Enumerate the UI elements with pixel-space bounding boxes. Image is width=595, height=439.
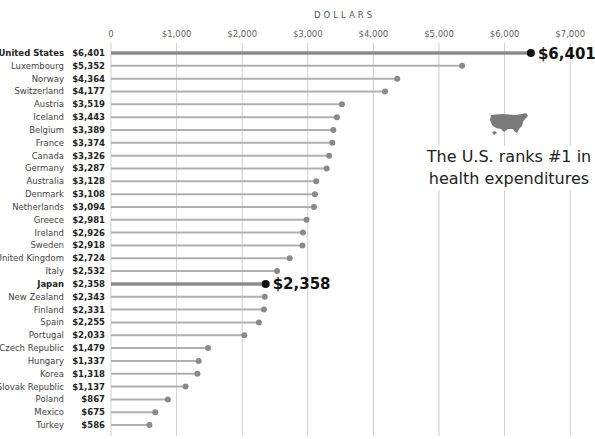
highlight-value-label: $2,358	[273, 275, 331, 293]
value-label: $2,033	[72, 330, 105, 340]
value-label: $2,331	[72, 305, 105, 315]
country-label: Germany	[25, 163, 64, 173]
country-label: Ireland	[35, 228, 64, 238]
lollipop-dot	[194, 371, 200, 377]
value-label: $2,724	[72, 253, 105, 263]
value-label: $2,358	[72, 279, 105, 289]
lollipop-dot	[394, 76, 400, 82]
country-label: Austria	[34, 99, 64, 109]
lollipop-dot	[330, 127, 336, 133]
country-label: United Kingdom	[0, 253, 64, 263]
country-label: Finland	[34, 305, 64, 315]
country-label: Poland	[36, 394, 64, 404]
country-label: Greece	[34, 215, 64, 225]
country-label: Slovak Republic	[0, 382, 64, 392]
lollipop-dot	[459, 63, 465, 69]
x-tick-label: $2,000	[227, 29, 257, 39]
country-label: United States	[0, 48, 64, 58]
value-label: $3,094	[72, 202, 105, 212]
lollipop-dot	[262, 280, 270, 288]
value-label: $3,326	[72, 151, 105, 161]
lollipop-dot	[339, 101, 345, 107]
value-label: $6,401	[72, 48, 105, 58]
x-tick-label: $1,000	[162, 29, 192, 39]
value-label: $3,389	[72, 125, 105, 135]
x-tick-label: $7,000	[555, 29, 585, 39]
health-expenditure-chart: DOLLARS0$1,000$2,000$3,000$4,000$5,000$6…	[0, 0, 595, 439]
value-label: $675	[81, 407, 105, 417]
value-label: $3,443	[72, 112, 105, 122]
value-label: $3,374	[72, 138, 105, 148]
lollipop-dot	[527, 49, 535, 57]
x-axis-title: DOLLARS	[314, 10, 375, 20]
lollipop-dot	[313, 178, 319, 184]
lollipop-dot	[287, 255, 293, 261]
country-label: Belgium	[29, 125, 64, 135]
value-label: $2,255	[72, 317, 105, 327]
lollipop-dot	[241, 332, 247, 338]
country-label: Canada	[32, 151, 64, 161]
country-label: Switzerland	[14, 86, 64, 96]
x-tick-label: $6,000	[490, 29, 520, 39]
lollipop-dot	[165, 396, 171, 402]
x-tick-label: $3,000	[293, 29, 323, 39]
country-label: Sweden	[30, 240, 64, 250]
x-tick-label: $4,000	[359, 29, 389, 39]
value-label: $867	[81, 394, 105, 404]
x-tick-label: 0	[108, 29, 113, 39]
lollipop-dot	[304, 217, 310, 223]
lollipop-dot	[326, 153, 332, 159]
country-label: Denmark	[25, 189, 64, 199]
value-label: $5,352	[72, 61, 105, 71]
value-label: $2,532	[72, 266, 105, 276]
country-label: Netherlands	[12, 202, 64, 212]
lollipop-dot	[300, 230, 306, 236]
country-label: New Zealand	[8, 292, 64, 302]
lollipop-dot	[183, 384, 189, 390]
country-label: Portugal	[29, 330, 64, 340]
value-label: $1,479	[72, 343, 105, 353]
lollipop-dot	[324, 165, 330, 171]
lollipop-dot	[146, 422, 152, 428]
us-map-icon	[488, 112, 530, 138]
lollipop-dot	[382, 88, 388, 94]
value-label: $3,519	[72, 99, 105, 109]
value-label: $2,926	[72, 228, 105, 238]
highlight-value-label: $6,401	[538, 45, 595, 63]
annotation-line-1: The U.S. ranks #1 in	[424, 146, 594, 168]
country-label: Iceland	[33, 112, 64, 122]
country-label: Hungary	[28, 356, 64, 366]
value-label: $3,128	[72, 176, 105, 186]
lollipop-dot	[312, 191, 318, 197]
lollipop-dot	[196, 358, 202, 364]
lollipop-dot	[274, 268, 280, 274]
lollipop-dot	[329, 140, 335, 146]
country-label: Korea	[40, 369, 64, 379]
annotation-callout: The U.S. ranks #1 in health expenditures	[424, 146, 594, 190]
lollipop-dot	[152, 409, 158, 415]
value-label: $4,177	[72, 86, 105, 96]
country-label: Australia	[26, 176, 64, 186]
x-tick-label: $5,000	[424, 29, 454, 39]
value-label: $2,918	[72, 240, 105, 250]
value-label: $1,318	[72, 369, 105, 379]
lollipop-dot	[334, 114, 340, 120]
country-label: France	[36, 138, 64, 148]
country-label: Italy	[46, 266, 64, 276]
lollipop-dot	[311, 204, 317, 210]
lollipop-dot	[261, 307, 267, 313]
country-label: Czech Republic	[0, 343, 64, 353]
lollipop-dot	[262, 294, 268, 300]
annotation-line-2: health expenditures	[424, 168, 594, 190]
value-label: $1,337	[72, 356, 105, 366]
value-label: $2,343	[72, 292, 105, 302]
value-label: $2,981	[72, 215, 105, 225]
lollipop-dot	[299, 242, 305, 248]
country-label: Mexico	[34, 407, 64, 417]
country-label: Norway	[32, 74, 64, 84]
country-label: Spain	[40, 317, 64, 327]
lollipop-dot	[205, 345, 211, 351]
country-label: Turkey	[35, 420, 64, 430]
value-label: $1,137	[72, 382, 105, 392]
value-label: $3,108	[72, 189, 105, 199]
